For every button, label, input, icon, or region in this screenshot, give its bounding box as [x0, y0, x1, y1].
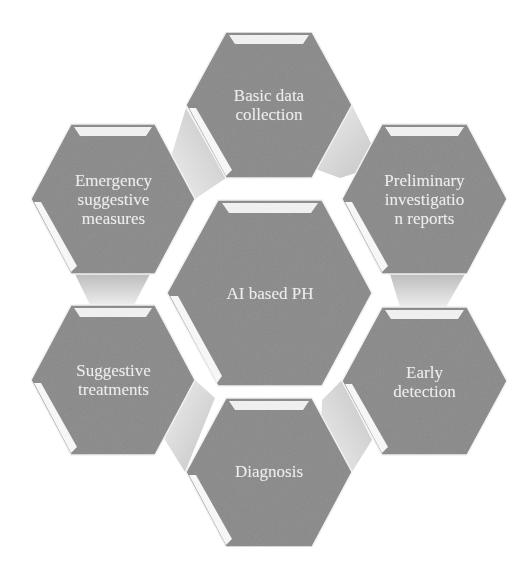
node-upper-right-line-3: n reports [384, 209, 464, 228]
node-label-upper-right: Preliminary investigatio n reports [352, 152, 497, 246]
node-upper-left-line-3: measures [75, 209, 152, 228]
node-top-line-1: Basic data [234, 86, 304, 105]
node-upper-left-line-1: Emergency [75, 171, 152, 190]
center-line-1: AI based PH [227, 284, 314, 303]
node-upper-left-line-2: suggestive [75, 190, 152, 209]
node-label-lower-left: Suggestive treatments [41, 333, 186, 427]
node-lower-right-line-2: detection [393, 382, 455, 401]
connector-upper-right-lower-right [390, 274, 465, 307]
node-top-line-2: collection [234, 105, 304, 124]
node-lower-right-line-1: Early [393, 363, 455, 382]
node-label-upper-left: Emergency suggestive measures [41, 152, 186, 246]
center-label: AI based PH [180, 248, 360, 338]
node-lower-left-line-1: Suggestive [76, 361, 151, 380]
node-label-bottom: Diagnosis [196, 426, 342, 516]
node-label-lower-right: Early detection [352, 335, 497, 429]
node-upper-right-line-1: Preliminary [384, 171, 464, 190]
connector-lower-left-upper-left [75, 274, 150, 305]
node-upper-right-line-2: investigatio [384, 190, 464, 209]
node-lower-left-line-2: treatments [76, 380, 151, 399]
node-bottom-line-1: Diagnosis [235, 462, 303, 481]
node-label-top: Basic data collection [196, 60, 342, 150]
